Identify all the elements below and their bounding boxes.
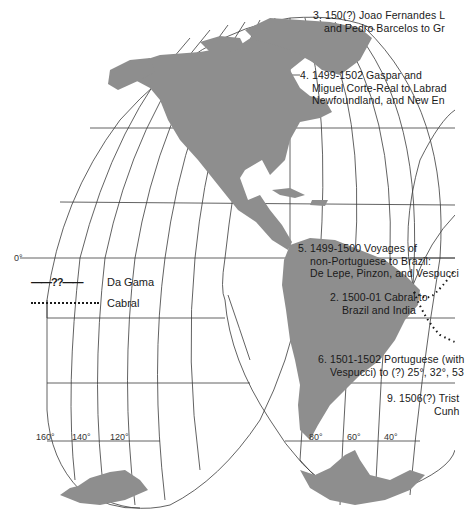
annotation-9: 9. 1506(?) Trist Cunh (387, 392, 460, 417)
longitude-label-60: 60° (347, 432, 361, 442)
legend-label-da-gama: Da Gama (107, 276, 154, 288)
antarctica-west (60, 470, 148, 505)
longitude-label-80: 80° (309, 432, 323, 442)
dotted-line-symbol (31, 302, 99, 304)
annotation-5: 5. 1499-1500 Voyages of non-Portuguese t… (298, 242, 459, 280)
legend-label-cabral: Cabral (107, 297, 139, 309)
dashed-line-symbol: ——??—— (31, 276, 101, 288)
longitude-label-160: 160° (36, 432, 55, 442)
legend-da-gama: ——??—— Da Gama (31, 276, 154, 288)
legend-cabral: Cabral (31, 297, 139, 309)
longitude-label-140: 140° (72, 432, 91, 442)
longitude-label-40: 40° (384, 432, 398, 442)
annotation-2: 2. 1500-01 Cabral to Brazil and India (330, 291, 428, 316)
annotation-3: 3. 150(?) Joao Fernandes L and Pedro Bar… (313, 9, 445, 34)
hispaniola (310, 200, 328, 206)
antarctica-south (300, 450, 425, 505)
annotation-4: 4. 1499-1502 Gaspar and Miguel Corte-Rea… (300, 69, 447, 107)
cuba (272, 188, 305, 198)
annotation-6: 6. 1501-1502 Portuguese (with Vespucci) … (318, 353, 465, 378)
equator-label: 0° (14, 253, 23, 263)
longitude-label-120: 120° (110, 432, 129, 442)
